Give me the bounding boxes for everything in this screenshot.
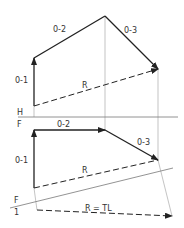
label-1-aux: 1	[14, 208, 19, 217]
resultant-front	[34, 160, 158, 188]
label-0-2-top: 0-2	[53, 25, 66, 34]
label-r-top: R	[82, 81, 88, 90]
label-f: F	[17, 120, 22, 129]
vector-0-2-top	[34, 16, 105, 58]
vector-0-3-top	[105, 16, 158, 69]
label-0-2-front: 0-2	[57, 120, 70, 129]
label-0-1-top: 0-1	[15, 76, 28, 85]
resultant-top	[34, 69, 158, 106]
label-0-3-top: 0-3	[124, 26, 137, 35]
label-r-front: R	[82, 166, 88, 175]
label-h: H	[17, 108, 23, 117]
label-r-tl: R = TL	[85, 204, 112, 213]
vector-diagram: 0-2 0-3 0-1 R H F 0-2 0-3 0-1 R F 1 R = …	[0, 0, 184, 228]
label-0-1-front: 0-1	[15, 156, 28, 165]
label-0-3-front: 0-3	[137, 138, 150, 147]
label-f-aux: F	[14, 196, 19, 205]
